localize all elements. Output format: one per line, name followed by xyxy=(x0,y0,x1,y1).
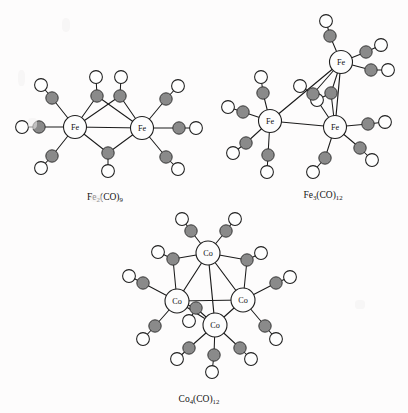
oxygen-atom xyxy=(382,64,395,77)
carbon-atom xyxy=(234,342,246,354)
oxygen-atom xyxy=(102,165,115,178)
carbon-atom xyxy=(167,253,179,265)
oxygen-atom xyxy=(172,80,185,93)
oxygen-atom xyxy=(35,162,48,175)
molecular-structures-figure: FeFeFe2(CO)9FeFeFeFe3(CO)12CoCoCoCoCo4(C… xyxy=(0,0,408,413)
carbon-atom xyxy=(185,225,197,237)
oxygen-atom xyxy=(16,121,29,134)
oxygen-atom xyxy=(115,71,128,84)
oxygen-atom xyxy=(261,166,274,179)
carbon-atom xyxy=(319,152,331,164)
scan-artifact xyxy=(90,195,104,202)
oxygen-atom xyxy=(152,246,165,259)
oxygen-atom xyxy=(284,271,297,284)
oxygen-atom xyxy=(222,101,235,114)
carbon-atom xyxy=(190,302,202,314)
oxygen-atom xyxy=(307,166,320,179)
oxygen-atom xyxy=(255,247,268,260)
metal-symbol-label: Fe xyxy=(138,124,147,133)
oxygen-atom xyxy=(172,163,185,176)
carbon-atom xyxy=(257,87,269,99)
scan-artifact xyxy=(355,300,365,309)
oxygen-atom xyxy=(375,39,388,52)
structure-fe3co12: FeFeFeFe3(CO)12 xyxy=(222,15,395,202)
oxygen-atom xyxy=(320,15,333,28)
structure-co4co12: CoCoCoCoCo4(CO)12 xyxy=(123,213,297,406)
diagram-canvas: FeFeFe2(CO)9FeFeFeFe3(CO)12CoCoCoCoCo4(C… xyxy=(0,0,408,413)
carbon-atom xyxy=(354,142,366,154)
carbon-atom xyxy=(46,150,58,162)
scan-artifact xyxy=(18,70,25,86)
carbon-atom xyxy=(325,87,337,99)
carbon-atom xyxy=(114,90,126,102)
oxygen-atom xyxy=(123,270,136,283)
carbon-atom xyxy=(208,349,220,361)
metal-symbol-label: Co xyxy=(203,249,213,258)
carbon-atom xyxy=(220,225,232,237)
scan-artifact xyxy=(28,118,37,129)
oxygen-atom xyxy=(245,353,258,366)
carbon-atom xyxy=(241,254,253,266)
structure-formula-label: Fe3(CO)12 xyxy=(303,190,343,201)
carbon-atom xyxy=(365,64,377,76)
carbon-atom xyxy=(240,137,252,149)
oxygen-atom xyxy=(366,154,379,167)
metal-symbol-label: Co xyxy=(172,297,182,306)
oxygen-atom xyxy=(190,122,203,135)
metal-symbol-label: Fe xyxy=(331,123,340,132)
structure-formula-label: Co4(CO)12 xyxy=(179,394,220,405)
oxygen-atom xyxy=(176,213,189,226)
oxygen-atom xyxy=(35,79,48,92)
structure-fe2co9: FeFeFe2(CO)9 xyxy=(16,71,203,204)
carbon-atom xyxy=(259,320,271,332)
oxygen-atom xyxy=(206,366,219,379)
oxygen-atom xyxy=(229,213,242,226)
metal-symbol-label: Co xyxy=(238,296,248,305)
carbon-atom xyxy=(270,277,282,289)
metal-symbol-label: Fe xyxy=(337,58,346,67)
oxygen-atom xyxy=(379,116,392,129)
metal-symbol-label: Fe xyxy=(266,117,275,126)
scan-artifact xyxy=(62,18,70,32)
carbon-atom xyxy=(262,149,274,161)
carbon-atom xyxy=(307,88,319,100)
carbon-atom xyxy=(173,122,185,134)
oxygen-atom xyxy=(227,147,240,160)
carbon-atom xyxy=(183,342,195,354)
carbon-atom xyxy=(324,30,336,42)
oxygen-atom xyxy=(137,333,150,346)
carbon-atom xyxy=(149,320,161,332)
carbon-atom xyxy=(46,92,58,104)
metal-symbol-label: Fe xyxy=(71,123,80,132)
carbon-atom xyxy=(137,277,149,289)
metal-symbol-label: Co xyxy=(210,321,220,330)
oxygen-atom xyxy=(294,80,307,93)
oxygen-atom xyxy=(171,353,184,366)
carbon-atom xyxy=(102,147,114,159)
oxygen-atom xyxy=(90,71,103,84)
oxygen-atom xyxy=(183,315,196,328)
carbon-atom xyxy=(237,106,249,118)
carbon-atom xyxy=(160,93,172,105)
oxygen-atom xyxy=(270,333,283,346)
carbon-atom xyxy=(160,151,172,163)
carbon-atom xyxy=(360,46,372,58)
carbon-atom xyxy=(362,118,374,130)
oxygen-atom xyxy=(255,71,268,84)
carbon-atom xyxy=(91,90,103,102)
